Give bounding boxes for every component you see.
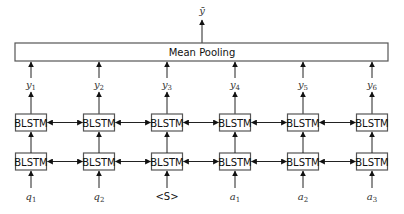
blstm-label: BLSTM (355, 118, 389, 129)
blstm-label: BLSTM (286, 157, 320, 168)
output-token-1: y1 (25, 79, 36, 92)
output-token-3: y3 (161, 79, 172, 92)
blstm-label: BLSTM (150, 118, 184, 129)
blstm-label: BLSTM (82, 157, 116, 168)
output-token-5: y5 (297, 79, 308, 92)
output-token-6: y6 (366, 79, 378, 92)
blstm-label: BLSTM (150, 157, 184, 168)
blstm-label: BLSTM (355, 157, 389, 168)
blstm-label: BLSTM (14, 157, 48, 168)
blstm-label: BLSTM (218, 157, 252, 168)
blstm-label: BLSTM (82, 118, 116, 129)
output-label: ȳ (198, 5, 205, 16)
input-token-4: a1 (230, 191, 240, 204)
blstm-label: BLSTM (14, 118, 48, 129)
blstm-label: BLSTM (218, 118, 252, 129)
input-token-1: q1 (26, 191, 37, 204)
input-token-6: a3 (367, 191, 377, 204)
blstm-mean-pooling-diagram: ȳMean Poolingy1BLSTMBLSTMq1y2BLSTMBLSTMq… (0, 0, 404, 214)
input-token-2: q2 (94, 191, 105, 204)
input-token-5: a2 (298, 191, 308, 204)
input-token-3: <S> (155, 191, 178, 202)
mean-pooling-label: Mean Pooling (169, 47, 236, 58)
output-token-2: y2 (93, 79, 104, 92)
blstm-label: BLSTM (286, 118, 320, 129)
output-token-4: y4 (229, 79, 241, 92)
